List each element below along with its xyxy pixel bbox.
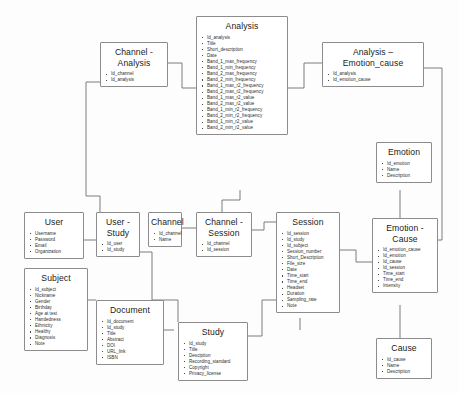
title-line: User - [99,217,137,228]
entity-analysis-emotion-cause-title: Analysis – Emotion_cause [323,45,423,71]
entity-session[interactable]: Session Id_session Id_study Id_subject S… [276,212,340,313]
title-line: Analysis [103,58,165,69]
entity-study[interactable]: Study Id_study Title Desciption Recordin… [178,322,248,381]
entity-channel-session-fields: Id_channel Id_session [197,241,251,253]
entity-subject-fields: Id_subject Nickname Gender Birthday Age … [25,287,87,347]
field: Id_session [201,247,249,253]
field: Intensity [377,283,435,289]
entity-cause-fields: Id_cause Name Description [377,357,431,375]
entity-cause-title: Cause [377,341,431,357]
entity-channel-analysis-title: Channel - Analysis [101,45,167,71]
entity-analysis-emotion-cause[interactable]: Analysis – Emotion_cause Id_analysis Id_… [322,42,424,87]
entity-cause[interactable]: Cause Id_cause Name Description [376,338,432,379]
entity-channel-session[interactable]: Channel - Session Id_channel Id_session [196,212,252,257]
entity-emotion-title: Emotion [377,145,431,161]
wire-emotion-cause-to-session [340,250,372,262]
field: Description [381,369,429,375]
field: Name [153,237,179,243]
entity-analysis-fields: Id_analysis Title Short_description Date… [197,35,287,132]
entity-user-study-fields: Id_user Id_study [97,241,139,253]
entity-subject[interactable]: Subject Id_subject Nickname Gender Birth… [24,268,88,351]
field: Id_study [101,247,137,253]
field: Band_2_min_r2_value [201,125,285,131]
entity-study-fields: Id_study Title Desciption Recording_stan… [179,341,247,377]
entity-document[interactable]: Document Id_document Id_study Title Abst… [96,300,164,365]
entity-study-title: Study [179,325,247,341]
entity-document-title: Document [97,303,163,319]
wire-analysis-to-channel-session [222,190,240,212]
entity-analysis-title: Analysis [197,19,287,35]
wire-channel-analysis-to-analysis [168,63,196,88]
entity-session-title: Session [277,215,339,231]
wire-channel-session-to-session [252,222,276,230]
entity-user-study-title: User - Study [97,215,139,241]
field: ISBN [101,355,161,361]
wire-analysis-to-analysis-emotion-cause [288,63,322,88]
title-line: Session [199,228,249,239]
wire-study-to-session [248,300,276,336]
er-diagram-canvas: Analysis Id_analysis Title Short_descrip… [0,0,459,393]
entity-user[interactable]: User Username Password Email Organizatio… [24,212,84,259]
entity-analysis-emotion-cause-fields: Id_analysis Id_emotion_cause [323,71,423,83]
field: Description [381,173,429,179]
wire-channel-analysis-to-channel [86,82,100,212]
entity-user-fields: Username Password Email Organization [25,231,83,255]
field: Id_analysis [105,77,165,83]
entity-channel-title: Channel [149,215,181,231]
title-line: Emotion_cause [325,58,421,69]
entity-channel-analysis[interactable]: Channel - Analysis Id_channel Id_analysi… [100,42,168,87]
field: Note [29,341,85,347]
title-line: Analysis – [325,47,421,58]
entity-emotion-cause-title: Emotion - Cause [373,221,437,247]
entity-session-fields: Id_session Id_study Id_subject Session_n… [277,231,339,310]
entity-channel-fields: Id_channel Name [149,231,181,243]
entity-analysis[interactable]: Analysis Id_analysis Title Short_descrip… [196,16,288,135]
field: Note [281,303,337,309]
entity-user-study[interactable]: User - Study Id_user Id_study [96,212,140,257]
entity-emotion[interactable]: Emotion Id_emotion Name Description [376,142,432,183]
title-line: Channel - [103,47,165,58]
entity-emotion-fields: Id_emotion Name Description [377,161,431,179]
field: Privacy_license [183,371,245,377]
entity-emotion-cause-fields: Id_emotion_cause Id_emotion Id_cause Id_… [373,247,437,289]
title-line: Study [99,228,137,239]
entity-emotion-cause[interactable]: Emotion - Cause Id_emotion_cause Id_emot… [372,218,438,293]
entity-channel-session-title: Channel - Session [197,215,251,241]
entity-channel[interactable]: Channel Id_channel Name [148,212,182,247]
entity-subject-title: Subject [25,271,87,287]
title-line: Channel - [199,217,249,228]
entity-document-fields: Id_document Id_study Title Abstract DOI … [97,319,163,361]
title-line: Emotion - [375,223,435,234]
entity-channel-analysis-fields: Id_channel Id_analysis [101,71,167,83]
title-line: Cause [375,234,435,245]
entity-user-title: User [25,215,83,231]
field: Organization [29,249,81,255]
field: Id_emotion_cause [327,77,421,83]
